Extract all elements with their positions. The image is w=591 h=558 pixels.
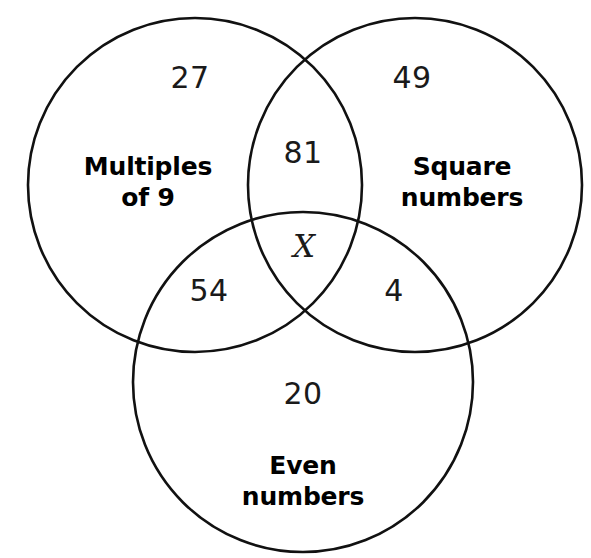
set-label-even-numbers: Even numbers — [242, 451, 364, 512]
set-label-multiples-of-9-line2: of 9 — [84, 182, 212, 213]
region-value-even-only: 20 — [283, 376, 322, 413]
set-label-even-numbers-line1: Even — [242, 451, 364, 482]
region-value-squares-only: 49 — [392, 60, 431, 97]
set-label-square-numbers-line1: Square — [401, 152, 523, 183]
set-label-multiples-of-9-line1: Multiples — [84, 152, 212, 183]
set-label-square-numbers: Square numbers — [401, 152, 523, 213]
set-label-square-numbers-line2: numbers — [401, 182, 523, 213]
set-label-multiples-of-9: Multiples of 9 — [84, 152, 212, 213]
set-label-even-numbers-line2: numbers — [242, 481, 364, 512]
region-value-multiples-only: 27 — [170, 60, 209, 97]
region-value-all-three: X — [293, 228, 315, 266]
region-value-squares-and-even: 4 — [384, 273, 404, 310]
region-value-multiples-and-squares: 81 — [283, 135, 322, 172]
region-value-multiples-and-even: 54 — [189, 273, 228, 310]
venn-diagram: Multiples of 9 Square numbers Even numbe… — [0, 0, 591, 558]
